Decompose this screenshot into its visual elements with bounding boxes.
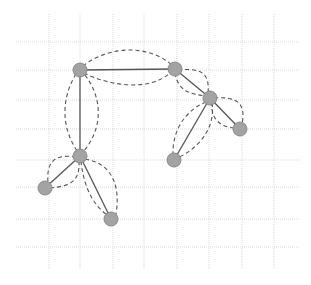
dashed-edge — [83, 75, 98, 152]
node-D — [73, 149, 87, 163]
dashed-edge — [212, 102, 236, 128]
dashed-edge — [65, 74, 78, 152]
grid — [16, 14, 300, 270]
dashed-edge — [173, 102, 206, 155]
node-G — [167, 153, 181, 167]
node-A — [73, 63, 87, 77]
node-B — [168, 62, 182, 76]
dashed-edge — [175, 73, 206, 96]
node-C — [203, 91, 217, 105]
dashed-edge — [83, 50, 172, 66]
graph-diagram — [0, 0, 311, 285]
node-H — [233, 122, 247, 136]
dashed-edge — [177, 103, 213, 158]
dashed-edge — [81, 161, 107, 215]
dashed-edge — [214, 98, 243, 124]
node-F — [104, 212, 118, 226]
dashed-edge — [84, 72, 171, 85]
dashed-edge — [48, 156, 76, 183]
node-E — [38, 181, 52, 195]
dashed-edge — [178, 70, 208, 93]
dashed-edge — [50, 161, 79, 188]
